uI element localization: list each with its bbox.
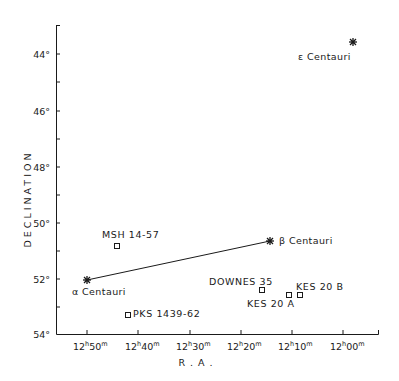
pks-1439-62-label: PKS 1439-62 <box>133 308 200 319</box>
star-icon-alpha <box>83 276 91 284</box>
msh-14-57-label: MSH 14-57 <box>102 229 159 240</box>
alpha-centauri-label: α Centauri <box>72 286 126 297</box>
square-icon-kes-20b <box>298 293 303 298</box>
x-tick-label: 12h50m <box>73 340 108 352</box>
kes-20a-label: KES 20 A <box>247 298 295 309</box>
x-tick-label: 12h20m <box>227 340 262 352</box>
star-icon-beta <box>266 237 274 245</box>
y-tick-labels: 44° 46° 48° 50° 52° 54° <box>33 49 50 340</box>
square-icon-downes-35 <box>260 288 265 293</box>
x-tick-label: 12h30m <box>176 340 211 352</box>
x-tick-label: 12h40m <box>125 340 160 352</box>
x-axis-title: R . A . <box>178 357 213 368</box>
beta-centauri-label: β Centauri <box>279 235 333 246</box>
kes-20b-label: KES 20 B <box>296 281 344 292</box>
square-icon-msh-14-57 <box>115 244 120 249</box>
square-icon-pks-1439-62 <box>126 313 131 318</box>
y-tick-label: 52° <box>33 274 50 285</box>
epsilon-centauri-label: ε Centauri <box>298 51 351 62</box>
sky-chart: 44° 46° 48° 50° 52° 54° DECLINATION 12h5… <box>0 0 399 381</box>
square-icon-kes-20a <box>287 293 292 298</box>
x-tick-label: 12h00m <box>330 340 365 352</box>
y-tick-label: 54° <box>33 329 50 340</box>
x-tick-label: 12h10m <box>278 340 313 352</box>
y-axis-title: DECLINATION <box>22 150 33 247</box>
y-tick-label: 48° <box>33 162 50 173</box>
x-tick-labels: 12h50m 12h40m 12h30m 12h20m 12h10m 12h00… <box>73 340 365 352</box>
downes-35-label: DOWNES 35 <box>209 276 273 287</box>
y-tick-label: 44° <box>33 49 50 60</box>
y-tick-label: 50° <box>33 218 50 229</box>
y-tick-label: 46° <box>33 106 50 117</box>
star-icon-epsilon <box>349 38 357 46</box>
